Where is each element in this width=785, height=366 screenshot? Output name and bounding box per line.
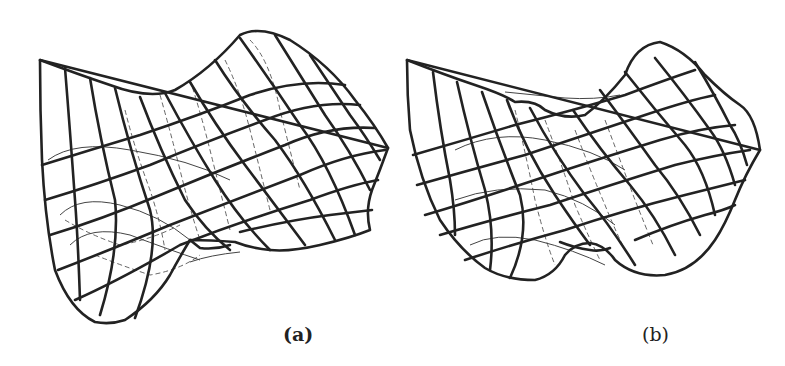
hidden-lines-a — [48, 40, 300, 275]
figure-panel-a: (a) — [0, 0, 395, 366]
panel-caption-a: (a) — [283, 323, 313, 345]
grid-lines-v-a — [42, 83, 385, 300]
surface-outline-b — [407, 42, 760, 280]
panel-caption-b: (b) — [642, 323, 669, 345]
wireframe-surface-a — [0, 0, 395, 366]
figure-panel-b: (b) — [395, 0, 785, 366]
wireframe-surface-b — [395, 0, 785, 366]
